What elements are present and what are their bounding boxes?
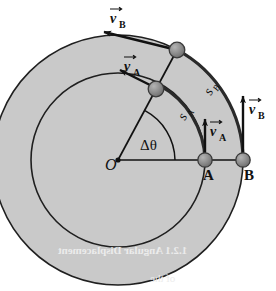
label-velocity-b-rotated-sub: B <box>119 19 126 30</box>
label-velocity-b-initial: v B <box>249 98 265 121</box>
label-velocity-b-rotated: v B <box>110 7 126 30</box>
label-velocity-a-initial-sub: A <box>219 132 227 143</box>
label-velocity-b-rotated-main: v <box>110 11 117 26</box>
rotation-diagram-svg: O A B Δθ s A s B v A v B <box>0 0 276 291</box>
ball-b-prime <box>169 42 185 58</box>
ball-b <box>236 153 250 167</box>
ball-a-prime <box>148 81 164 97</box>
label-origin: O <box>105 156 117 173</box>
label-velocity-a-rotated-sub: A <box>133 67 141 78</box>
label-velocity-b-initial-main: v <box>249 102 256 117</box>
label-point-a: A <box>203 167 214 183</box>
label-velocity-b-initial-sub: B <box>258 110 265 121</box>
label-velocity-a-rotated-main: v <box>124 59 131 74</box>
rotation-diagram-figure: 1.2.1 Angular Displacement of the <box>0 0 276 291</box>
label-velocity-a-initial-main: v <box>210 124 217 139</box>
label-delta-theta: Δθ <box>140 137 157 153</box>
ball-a <box>198 153 212 167</box>
label-point-b: B <box>244 167 254 183</box>
